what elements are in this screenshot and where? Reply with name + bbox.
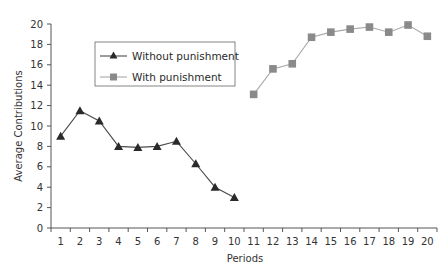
y-tick-label: 0 bbox=[37, 223, 43, 234]
triangle-marker bbox=[75, 106, 84, 114]
y-tick-label: 16 bbox=[30, 59, 43, 70]
square-marker bbox=[424, 32, 432, 40]
x-tick-label: 16 bbox=[344, 236, 357, 247]
y-tick-label: 4 bbox=[37, 182, 43, 193]
square-marker bbox=[269, 65, 277, 73]
y-tick-label: 18 bbox=[30, 39, 43, 50]
x-tick-label: 11 bbox=[247, 236, 260, 247]
square-marker bbox=[346, 25, 354, 33]
triangle-marker bbox=[95, 116, 104, 124]
series-without-punishment bbox=[56, 106, 239, 201]
y-axis-title: Average Contributions bbox=[13, 70, 24, 182]
triangle-marker bbox=[172, 137, 181, 145]
square-icon bbox=[110, 74, 117, 81]
y-axis: 02468101214161820 bbox=[30, 19, 51, 234]
x-tick-label: 12 bbox=[267, 236, 280, 247]
series-with-punishment bbox=[250, 21, 431, 98]
x-axis: 1234567891011121314151617181920 bbox=[51, 228, 437, 247]
x-tick-label: 19 bbox=[402, 236, 415, 247]
square-marker bbox=[366, 23, 374, 31]
x-axis-title: Periods bbox=[227, 253, 263, 264]
x-tick-label: 7 bbox=[173, 236, 179, 247]
y-tick-label: 20 bbox=[30, 19, 43, 30]
y-tick-label: 14 bbox=[30, 80, 43, 91]
x-tick-label: 3 bbox=[96, 236, 102, 247]
x-tick-label: 2 bbox=[77, 236, 83, 247]
x-tick-label: 1 bbox=[57, 236, 63, 247]
legend-label: Without punishment bbox=[132, 50, 239, 62]
x-tick-label: 18 bbox=[382, 236, 395, 247]
x-tick-label: 5 bbox=[135, 236, 141, 247]
square-marker bbox=[288, 60, 296, 68]
triangle-marker bbox=[230, 193, 239, 201]
legend-label: With punishment bbox=[132, 71, 222, 83]
square-marker bbox=[385, 28, 393, 36]
y-tick-label: 10 bbox=[30, 121, 43, 132]
x-tick-label: 20 bbox=[421, 236, 434, 247]
y-tick-label: 6 bbox=[37, 161, 43, 172]
series-line bbox=[254, 25, 428, 94]
square-marker bbox=[327, 28, 335, 36]
x-tick-label: 17 bbox=[363, 236, 376, 247]
x-tick-label: 8 bbox=[193, 236, 199, 247]
x-tick-label: 6 bbox=[154, 236, 160, 247]
square-marker bbox=[250, 91, 258, 99]
line-chart: 02468101214161820 1234567891011121314151… bbox=[0, 0, 448, 273]
x-tick-label: 4 bbox=[115, 236, 121, 247]
square-marker bbox=[404, 21, 412, 29]
x-tick-label: 15 bbox=[324, 236, 337, 247]
series-line bbox=[61, 111, 235, 198]
x-tick-label: 10 bbox=[228, 236, 241, 247]
legend: Without punishment With punishment bbox=[95, 42, 239, 86]
x-tick-label: 13 bbox=[286, 236, 299, 247]
y-tick-label: 8 bbox=[37, 141, 43, 152]
x-tick-label: 14 bbox=[305, 236, 318, 247]
x-tick-label: 9 bbox=[212, 236, 218, 247]
square-marker bbox=[308, 33, 316, 41]
y-tick-label: 2 bbox=[37, 202, 43, 213]
y-tick-label: 12 bbox=[30, 100, 43, 111]
